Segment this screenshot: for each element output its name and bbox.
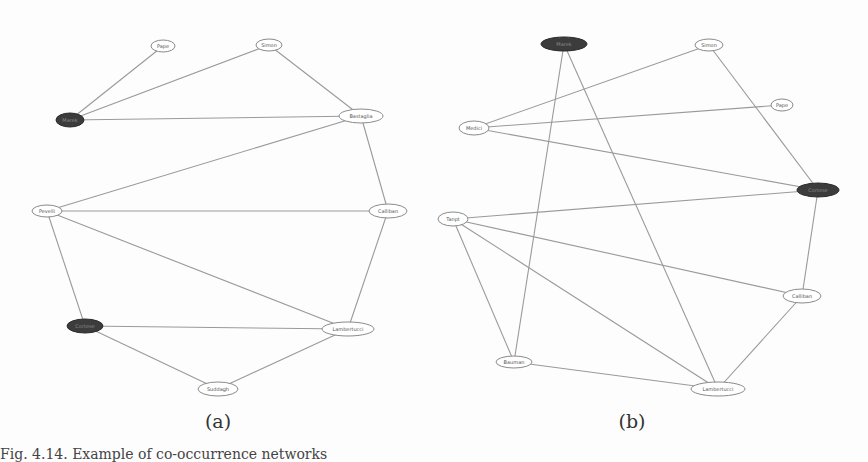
edge xyxy=(47,211,85,326)
edge xyxy=(802,190,818,296)
edge xyxy=(514,362,718,389)
graph-node: Lambertucci xyxy=(691,382,745,396)
edge xyxy=(474,45,709,128)
node-label: Calliban xyxy=(378,208,398,214)
node-label: Pevelli xyxy=(39,208,55,214)
subfigure-label-b: (b) xyxy=(619,410,646,432)
node-label: Tanpt xyxy=(445,216,460,223)
edges-layer xyxy=(47,44,818,389)
edge xyxy=(474,105,782,128)
graph-node: Tanpt xyxy=(438,212,468,226)
edge xyxy=(453,219,802,296)
edge xyxy=(348,211,388,329)
node-label: Pape xyxy=(776,102,788,109)
edge xyxy=(564,44,718,389)
graph-node: Simon xyxy=(695,39,723,51)
graph-node: Calliban xyxy=(369,204,407,218)
graph-node: Bastaglia xyxy=(339,109,383,123)
edge xyxy=(70,46,163,120)
node-label: Lambertucci xyxy=(702,386,733,392)
graph-node: Pevelli xyxy=(32,205,62,217)
figure-caption: Fig. 4.14. Example of co-occurrence netw… xyxy=(0,446,327,462)
graph-node: Suddagh xyxy=(198,382,238,396)
edge xyxy=(453,190,818,219)
graph-node: Calliban xyxy=(783,289,821,303)
edge xyxy=(70,116,361,120)
node-label: Bauman xyxy=(504,359,525,365)
graph-node: Marek xyxy=(56,113,84,127)
graph-node: Cortese xyxy=(797,183,839,197)
node-label: Bastaglia xyxy=(349,113,372,120)
node-label: Medici xyxy=(466,125,482,131)
graph-node: Bauman xyxy=(496,356,532,368)
edge xyxy=(269,45,361,116)
node-label: Cortese xyxy=(808,187,827,193)
node-label: Suddagh xyxy=(207,386,229,393)
graph-node: Cortese xyxy=(67,319,103,333)
edge xyxy=(514,44,564,362)
edge xyxy=(47,116,361,211)
edge xyxy=(218,329,348,389)
node-label: Pape xyxy=(157,43,169,50)
edge xyxy=(47,211,348,329)
node-label: Marek xyxy=(556,41,571,47)
edge xyxy=(718,296,802,389)
node-label: Lambertucci xyxy=(332,326,363,332)
node-label: Simon xyxy=(261,42,277,48)
edge xyxy=(474,128,818,190)
edge xyxy=(85,326,218,389)
edge xyxy=(709,45,818,190)
subfigure-label-a: (a) xyxy=(205,410,231,432)
edge xyxy=(453,219,718,389)
graph-node: Pape xyxy=(771,99,793,111)
graph-node: Marek xyxy=(541,37,587,51)
node-label: Calliban xyxy=(792,293,812,299)
node-label: Marek xyxy=(62,117,77,123)
edge xyxy=(70,45,269,120)
node-label: Cortese xyxy=(75,323,94,329)
graph-node: Pape xyxy=(151,40,175,52)
graph-node: Lambertucci xyxy=(322,322,374,336)
edge xyxy=(453,219,514,362)
nodes-layer: PapeSimonMarekBastagliaPevelliCallibanCo… xyxy=(32,37,839,396)
graph-node: Medici xyxy=(459,121,489,135)
node-label: Simon xyxy=(701,42,717,48)
edge xyxy=(85,326,348,329)
graph-node: Simon xyxy=(256,39,282,51)
edge xyxy=(361,116,388,211)
